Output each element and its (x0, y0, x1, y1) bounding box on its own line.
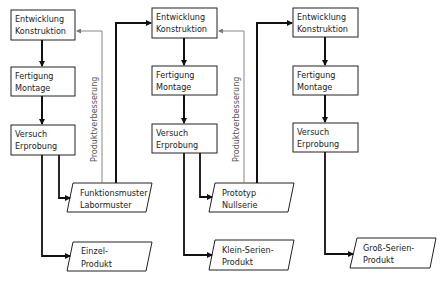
intermediate-label: Nullserie (222, 200, 257, 210)
arrow-to-product (325, 152, 353, 254)
box-label: Entwicklung (156, 12, 205, 22)
box-label: Montage (156, 82, 191, 92)
intermediate-label: Labormuster (80, 200, 132, 210)
box-label: Konstruktion (297, 24, 348, 34)
arrow-to-intermediate (59, 155, 70, 198)
product-label: Produkt (222, 257, 253, 267)
intermediate-label: Prototyp (222, 188, 256, 198)
box-label: Konstruktion (15, 26, 66, 36)
arrow-to-next-stage (116, 23, 151, 183)
stage-2: Entwicklung Konstruktion Fertigung Monta… (152, 8, 294, 270)
box-label: Konstruktion (156, 24, 207, 34)
box-label: Erprobung (297, 139, 339, 149)
product-label: Produkt (363, 255, 394, 265)
stage-1: Entwicklung Konstruktion Fertigung Monta… (11, 10, 152, 271)
feedback-label: Produktverbesserung (90, 77, 99, 162)
flow-diagram: Entwicklung Konstruktion Fertigung Monta… (0, 0, 440, 281)
product-label: Groß-Serien- (363, 243, 414, 253)
box-label: Versuch (297, 127, 329, 137)
product-label: Produkt (81, 259, 112, 269)
box-label: Versuch (15, 129, 47, 139)
product-label: Einzel- (81, 246, 108, 256)
stage-3: Entwicklung Konstruktion Fertigung Monta… (293, 8, 436, 268)
intermediate-label: Funktionsmuster (80, 188, 148, 198)
arrow-to-product (42, 155, 70, 256)
box-label: Entwicklung (297, 12, 346, 22)
box-label: Versuch (156, 128, 188, 138)
arrow-to-intermediate (200, 153, 212, 197)
box-label: Fertigung (156, 70, 194, 80)
feedback-label: Produktverbesserung (232, 77, 241, 162)
box-label: Montage (15, 83, 50, 93)
box-label: Entwicklung (15, 14, 64, 24)
arrow-to-next-stage (257, 23, 292, 183)
box-label: Erprobung (156, 140, 198, 150)
box-label: Erprobung (15, 141, 57, 151)
box-label: Fertigung (297, 70, 335, 80)
arrow-to-product (184, 153, 212, 255)
product-label: Klein-Serien- (222, 245, 274, 255)
box-label: Fertigung (15, 71, 53, 81)
box-label: Montage (297, 82, 332, 92)
